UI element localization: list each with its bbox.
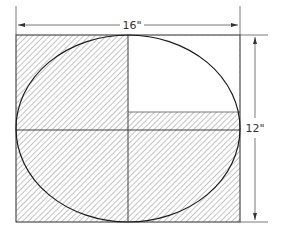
width-label: 16" (122, 19, 141, 32)
height-label: 12" (245, 122, 264, 135)
rectangle-ellipse-diagram: 16" 12" (0, 0, 283, 235)
arrow-up-icon (253, 37, 257, 44)
arrow-down-icon (253, 213, 257, 220)
arrow-left-icon (18, 23, 25, 27)
arrow-right-icon (231, 23, 238, 27)
